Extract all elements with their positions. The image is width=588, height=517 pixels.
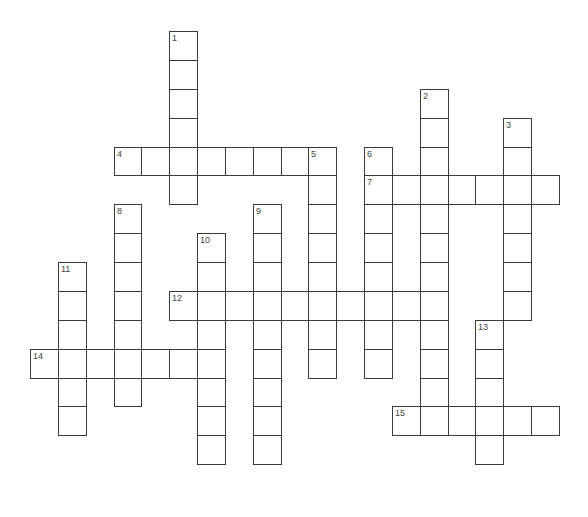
crossword-cell[interactable] bbox=[114, 378, 142, 407]
crossword-cell[interactable] bbox=[197, 406, 226, 436]
crossword-cell[interactable] bbox=[197, 378, 226, 407]
crossword-cell[interactable] bbox=[58, 291, 87, 321]
crossword-cell[interactable] bbox=[364, 262, 393, 292]
crossword-cell[interactable] bbox=[197, 435, 226, 465]
crossword-cell[interactable] bbox=[531, 175, 560, 205]
crossword-cell[interactable] bbox=[253, 349, 282, 379]
crossword-cell[interactable] bbox=[253, 233, 282, 263]
crossword-cell[interactable] bbox=[169, 175, 198, 205]
crossword-cell[interactable] bbox=[448, 175, 476, 205]
crossword-cell[interactable] bbox=[308, 349, 337, 379]
crossword-cell[interactable] bbox=[169, 60, 198, 90]
crossword-cell[interactable] bbox=[253, 147, 282, 176]
crossword-cell[interactable] bbox=[503, 262, 532, 292]
crossword-cell[interactable] bbox=[503, 147, 532, 176]
crossword-cell[interactable] bbox=[364, 233, 393, 263]
crossword-cell[interactable] bbox=[503, 175, 532, 205]
crossword-cell[interactable] bbox=[225, 147, 254, 176]
crossword-cell[interactable] bbox=[420, 147, 449, 176]
crossword-cell[interactable] bbox=[308, 291, 337, 321]
crossword-cell[interactable] bbox=[169, 89, 198, 119]
crossword-cell[interactable] bbox=[308, 262, 337, 292]
crossword-cell[interactable] bbox=[281, 147, 309, 176]
crossword-cell[interactable] bbox=[253, 378, 282, 407]
crossword-cell[interactable] bbox=[169, 349, 198, 379]
crossword-cell[interactable] bbox=[225, 291, 254, 321]
crossword-cell[interactable] bbox=[448, 406, 476, 436]
crossword-cell[interactable] bbox=[197, 262, 226, 292]
crossword-cell[interactable] bbox=[114, 291, 142, 321]
crossword-cell[interactable] bbox=[392, 175, 421, 205]
crossword-cell[interactable] bbox=[197, 291, 226, 321]
crossword-cell[interactable] bbox=[420, 204, 449, 234]
crossword-cell[interactable]: 14 bbox=[30, 349, 59, 379]
crossword-cell[interactable]: 11 bbox=[58, 262, 87, 292]
crossword-cell[interactable] bbox=[169, 147, 198, 176]
crossword-cell[interactable] bbox=[197, 147, 226, 176]
crossword-cell[interactable] bbox=[308, 320, 337, 350]
crossword-cell[interactable]: 9 bbox=[253, 204, 282, 234]
crossword-cell[interactable]: 13 bbox=[475, 320, 504, 350]
crossword-cell[interactable] bbox=[503, 204, 532, 234]
crossword-cell[interactable] bbox=[475, 435, 504, 465]
crossword-cell[interactable] bbox=[169, 118, 198, 148]
crossword-cell[interactable]: 5 bbox=[308, 147, 337, 176]
crossword-cell[interactable] bbox=[420, 175, 449, 205]
crossword-cell[interactable] bbox=[58, 378, 87, 407]
crossword-cell[interactable] bbox=[531, 406, 560, 436]
crossword-cell[interactable] bbox=[420, 262, 449, 292]
crossword-cell[interactable] bbox=[420, 378, 449, 407]
crossword-cell[interactable]: 15 bbox=[392, 406, 421, 436]
crossword-cell[interactable] bbox=[420, 349, 449, 379]
crossword-cell[interactable] bbox=[420, 233, 449, 263]
crossword-cell[interactable]: 7 bbox=[364, 175, 393, 205]
crossword-cell[interactable]: 6 bbox=[364, 147, 393, 176]
crossword-cell[interactable] bbox=[141, 349, 170, 379]
crossword-cell[interactable] bbox=[475, 406, 504, 436]
crossword-cell[interactable] bbox=[392, 291, 421, 321]
crossword-cell[interactable] bbox=[364, 291, 393, 321]
crossword-cell[interactable] bbox=[253, 291, 282, 321]
crossword-cell[interactable] bbox=[420, 118, 449, 148]
crossword-cell[interactable] bbox=[420, 291, 449, 321]
crossword-cell[interactable] bbox=[503, 291, 532, 321]
crossword-cell[interactable] bbox=[281, 291, 309, 321]
crossword-cell[interactable] bbox=[253, 262, 282, 292]
crossword-cell[interactable] bbox=[336, 291, 365, 321]
crossword-cell[interactable] bbox=[420, 320, 449, 350]
crossword-cell[interactable] bbox=[58, 320, 87, 350]
crossword-cell[interactable]: 3 bbox=[503, 118, 532, 148]
crossword-cell[interactable] bbox=[475, 378, 504, 407]
crossword-cell[interactable] bbox=[197, 349, 226, 379]
crossword-cell[interactable]: 10 bbox=[197, 233, 226, 263]
crossword-cell[interactable] bbox=[58, 406, 87, 436]
crossword-cell[interactable]: 4 bbox=[114, 147, 142, 176]
crossword-cell[interactable] bbox=[253, 435, 282, 465]
crossword-cell[interactable] bbox=[475, 349, 504, 379]
crossword-cell[interactable]: 8 bbox=[114, 204, 142, 234]
crossword-cell[interactable] bbox=[364, 204, 393, 234]
crossword-cell[interactable] bbox=[114, 233, 142, 263]
crossword-cell[interactable]: 2 bbox=[420, 89, 449, 119]
crossword-cell[interactable] bbox=[308, 204, 337, 234]
crossword-cell[interactable] bbox=[503, 406, 532, 436]
crossword-cell[interactable] bbox=[114, 262, 142, 292]
crossword-cell[interactable] bbox=[308, 175, 337, 205]
crossword-cell[interactable] bbox=[197, 320, 226, 350]
crossword-cell[interactable] bbox=[114, 349, 142, 379]
crossword-cell[interactable] bbox=[86, 349, 115, 379]
crossword-cell[interactable] bbox=[253, 320, 282, 350]
crossword-cell[interactable] bbox=[364, 349, 393, 379]
crossword-cell[interactable] bbox=[253, 406, 282, 436]
crossword-cell[interactable] bbox=[58, 349, 87, 379]
crossword-cell[interactable] bbox=[420, 406, 449, 436]
crossword-cell[interactable] bbox=[114, 320, 142, 350]
clue-number: 1 bbox=[172, 33, 177, 43]
crossword-cell[interactable] bbox=[364, 320, 393, 350]
crossword-cell[interactable] bbox=[308, 233, 337, 263]
crossword-cell[interactable] bbox=[503, 233, 532, 263]
crossword-cell[interactable] bbox=[141, 147, 170, 176]
crossword-cell[interactable]: 12 bbox=[169, 291, 198, 321]
crossword-cell[interactable]: 1 bbox=[169, 31, 198, 61]
crossword-cell[interactable] bbox=[475, 175, 504, 205]
